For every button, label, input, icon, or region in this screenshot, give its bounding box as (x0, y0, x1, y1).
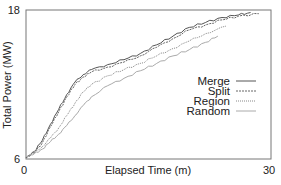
y-tick-min: 6 (14, 153, 20, 165)
series-line-random (26, 36, 218, 157)
x-axis-label: Elapsed Time (m) (105, 164, 191, 176)
legend: Merge Split Region Random (187, 75, 256, 117)
y-axis-label: Total Power (MW) (1, 41, 13, 128)
y-tick-max: 18 (8, 4, 20, 16)
x-tick-max: 30 (263, 164, 275, 176)
line-chart: 18 6 0 30 Elapsed Time (m) Total Power (… (0, 0, 281, 185)
plot-frame (26, 10, 271, 159)
x-tick-min: 0 (21, 164, 27, 176)
legend-label-random: Random (187, 105, 230, 117)
